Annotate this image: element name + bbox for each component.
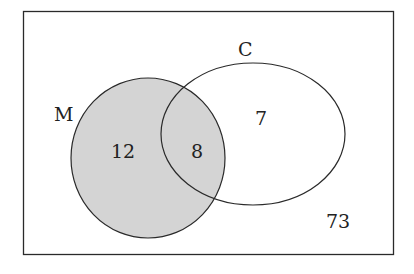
set-c-label: C [238,38,253,60]
set-m-label: M [54,103,73,125]
venn-diagram: M C 12 8 7 73 [0,0,414,274]
intersection-value: 8 [191,140,203,162]
m-only-value: 12 [111,140,135,162]
c-only-value: 7 [255,107,267,129]
outside-value: 73 [326,210,350,232]
